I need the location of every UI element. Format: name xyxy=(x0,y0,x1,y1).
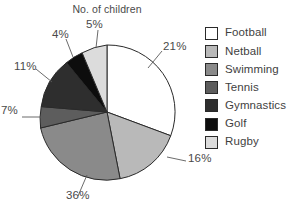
legend-item-golf[interactable]: Golf xyxy=(205,115,304,133)
legend-label-football: Football xyxy=(225,27,267,39)
data-label-tennis: 7% xyxy=(1,104,18,116)
leader-netball xyxy=(167,157,186,161)
data-label-rugby: 5% xyxy=(86,18,103,30)
data-label-football: 21% xyxy=(163,40,187,52)
chart-legend: Football Netball Swimming Tennis Gymnast… xyxy=(205,24,304,151)
legend-label-golf: Golf xyxy=(225,118,247,130)
legend-swatch-football-icon xyxy=(205,27,218,40)
legend-swatch-tennis-icon xyxy=(205,81,218,94)
legend-item-gymnastics[interactable]: Gymnastics xyxy=(205,97,304,115)
legend-swatch-rugby-icon xyxy=(205,136,218,149)
leader-rugby xyxy=(96,30,98,48)
data-label-gymnastics: 11% xyxy=(14,60,37,72)
pie-chart-figure: No. of children xyxy=(0,0,304,211)
data-label-swimming: 36% xyxy=(66,189,90,201)
legend-swatch-golf-icon xyxy=(205,118,218,131)
legend-swatch-netball-icon xyxy=(205,45,218,58)
chart-title: No. of children xyxy=(0,3,214,15)
legend-label-swimming: Swimming xyxy=(225,64,279,76)
legend-item-tennis[interactable]: Tennis xyxy=(205,79,304,97)
legend-item-football[interactable]: Football xyxy=(205,24,304,42)
data-label-golf: 4% xyxy=(52,28,69,40)
legend-swatch-swimming-icon xyxy=(205,63,218,76)
pie-slices xyxy=(40,45,175,180)
legend-swatch-gymnastics-icon xyxy=(205,99,218,112)
leader-golf xyxy=(66,39,73,57)
legend-label-gymnastics: Gymnastics xyxy=(225,100,286,112)
leader-gymnastics xyxy=(36,69,52,82)
legend-label-tennis: Tennis xyxy=(225,82,259,94)
legend-item-rugby[interactable]: Rugby xyxy=(205,133,304,151)
legend-label-netball: Netball xyxy=(225,46,262,58)
legend-item-swimming[interactable]: Swimming xyxy=(205,60,304,78)
legend-item-netball[interactable]: Netball xyxy=(205,42,304,60)
data-label-netball: 16% xyxy=(188,152,212,164)
legend-label-rugby: Rugby xyxy=(225,136,259,148)
